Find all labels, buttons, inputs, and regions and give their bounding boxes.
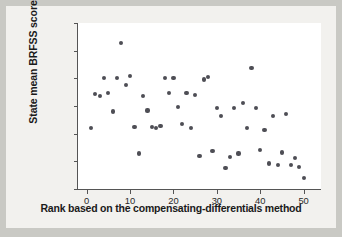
data-point [163, 76, 167, 80]
data-point [197, 154, 201, 158]
data-point [102, 76, 106, 80]
x-tick-mark [260, 189, 261, 194]
data-point [93, 92, 97, 96]
data-point [184, 91, 188, 95]
y-tick-mark [74, 23, 79, 24]
x-tick-mark [87, 189, 88, 194]
data-point [111, 109, 115, 113]
data-point [106, 91, 110, 95]
y-tick-mark [74, 189, 79, 190]
data-point [302, 176, 306, 180]
x-tick-mark [130, 189, 131, 194]
x-tick-mark [173, 189, 174, 194]
data-point [249, 66, 253, 70]
data-point [119, 41, 123, 45]
data-point [284, 112, 288, 116]
data-point [236, 151, 240, 155]
data-point [289, 163, 293, 167]
data-point [158, 124, 162, 128]
data-point [271, 114, 275, 118]
data-point [280, 150, 284, 154]
data-point [98, 94, 102, 98]
data-point [267, 161, 271, 165]
data-point [89, 126, 93, 130]
x-axis-label: Rank based on the compensating-different… [6, 202, 336, 214]
data-point [223, 166, 227, 170]
data-point [297, 165, 301, 169]
data-point [241, 101, 245, 105]
data-point [180, 122, 184, 126]
x-tick-mark [217, 189, 218, 194]
y-tick-mark [74, 134, 79, 135]
data-point [254, 106, 258, 110]
data-point [128, 74, 132, 78]
data-point [193, 93, 197, 97]
scatter-plot-area [78, 23, 321, 189]
plot-axes: 0.0500.0250.000-0.025-0.050-0.075-0.100 … [77, 23, 321, 190]
chart-container: State mean BRFSS score 0.0500.0250.000-0… [6, 6, 336, 228]
y-axis-label: State mean BRFSS score [27, 0, 39, 137]
data-point [132, 125, 136, 129]
data-point [293, 156, 297, 160]
data-point [219, 114, 223, 118]
data-point [124, 83, 128, 87]
data-point [167, 91, 171, 95]
data-point [189, 126, 193, 130]
x-tick-mark [304, 189, 305, 194]
data-point [228, 155, 232, 159]
y-tick-mark [74, 78, 79, 79]
data-point [206, 75, 210, 79]
data-point [145, 108, 149, 112]
data-point [245, 126, 249, 130]
data-point [258, 148, 262, 152]
data-point [176, 105, 180, 109]
data-point [215, 106, 219, 110]
data-point [276, 163, 280, 167]
data-point [137, 151, 141, 155]
y-tick-mark [74, 106, 79, 107]
data-point [171, 76, 175, 80]
data-point [262, 128, 266, 132]
y-tick-mark [74, 51, 79, 52]
y-tick-mark [74, 161, 79, 162]
data-point [210, 149, 214, 153]
data-point [141, 94, 145, 98]
data-point [232, 106, 236, 110]
figure-panel: State mean BRFSS score 0.0500.0250.000-0… [6, 6, 336, 228]
data-point [115, 76, 119, 80]
